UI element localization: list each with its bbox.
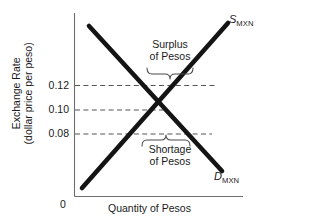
y-tick-label-0-10: 0.10 (29, 103, 69, 115)
demand-curve-label: DMXN (214, 170, 239, 186)
supply-curve-label: SMXN (229, 13, 254, 29)
origin-label: 0 (60, 198, 66, 210)
y-tick-label-0-12: 0.12 (29, 79, 69, 91)
y-axis-title-line1: Exchange Rate (10, 28, 22, 158)
y-tick-label-0-08: 0.08 (29, 127, 69, 139)
x-axis-title: Quantity of Pesos (108, 202, 191, 214)
surplus-label-line1: Surplus (135, 38, 205, 50)
shortage-label-line1: Shortage (131, 143, 209, 155)
shortage-label-line2: of Pesos (131, 155, 209, 167)
demand-subscript: MXN (222, 176, 239, 185)
y-axis-title: Exchange Rate (dollar price per peso) (10, 28, 35, 158)
exchange-rate-supply-demand-figure: 0.12 0.10 0.08 0 Quantity of Pesos Excha… (0, 0, 329, 223)
y-axis-title-line2: (dollar price per peso) (22, 28, 34, 158)
surplus-label-line2: of Pesos (135, 50, 205, 62)
demand-symbol: D (214, 170, 222, 182)
surplus-annotation: Surplus of Pesos (135, 38, 205, 63)
shortage-annotation: Shortage of Pesos (131, 143, 209, 168)
supply-subscript: MXN (236, 19, 253, 28)
